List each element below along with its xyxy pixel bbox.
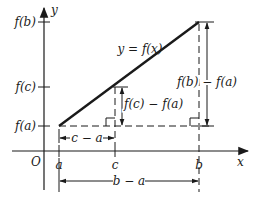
- diagram-canvas: y x O f(b) f(c) f(a) a c b y = f(x) f(b)…: [0, 0, 257, 205]
- y-axis-label: y: [50, 3, 58, 17]
- dim-label-fc-fa: f(c) − f(a): [123, 97, 183, 111]
- curve-label: y = f(x): [116, 42, 162, 56]
- dim-label-fb-fa: f(b) − f(a): [176, 75, 237, 89]
- y-tick-label-fa: f(a): [14, 119, 36, 133]
- x-tick-label-c: c: [112, 158, 119, 172]
- dimension-fb-fa: [195, 22, 214, 126]
- y-tick-label-fc: f(c): [14, 80, 36, 94]
- dim-label-c-a: c − a: [71, 131, 103, 145]
- y-tick-label-fb: f(b): [14, 15, 37, 29]
- dim-label-b-a: b − a: [113, 174, 146, 188]
- origin-label: O: [31, 155, 41, 169]
- x-tick-label-a: a: [55, 158, 62, 172]
- right-angle-marker-c: [106, 118, 115, 126]
- x-axis-label: x: [237, 155, 244, 169]
- right-angle-marker-b: [190, 118, 199, 126]
- x-tick-label-b: b: [195, 158, 203, 172]
